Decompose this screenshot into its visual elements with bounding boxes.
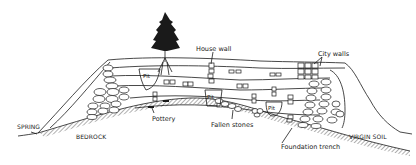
pottery-label: Pottery [152, 115, 175, 123]
virgin-soil-label: VIRGIN SOIL [349, 133, 387, 140]
pit-1: Pit [139, 69, 160, 90]
spring-label: SPRING [17, 123, 40, 130]
city-walls-label: City walls [318, 50, 350, 58]
house-wall-stones [153, 63, 293, 122]
tell-cross-section-diagram: Pit Pit Pit House wall City walls Potter… [0, 0, 416, 165]
house-wall-label: House wall [196, 45, 232, 53]
pottery-leader [152, 108, 154, 113]
fallen-stones-leader [232, 110, 233, 119]
fallen-stones-label: Fallen stones [211, 121, 254, 129]
house-wall-leader [211, 52, 213, 64]
pit-label: Pit [207, 94, 215, 100]
pit-label: Pit [143, 73, 151, 79]
bedrock-label: BEDROCK [76, 133, 107, 140]
pit-label: Pit [268, 105, 276, 111]
city-walls-stones [298, 63, 344, 129]
foundation-trench-leader [282, 128, 292, 143]
foundation-trench-label: Foundation trench [281, 143, 340, 151]
pottery-sherds [148, 106, 154, 108]
pit-3: Pit [266, 102, 282, 116]
stratum-line [115, 85, 325, 90]
pottery-sherds [163, 100, 169, 102]
